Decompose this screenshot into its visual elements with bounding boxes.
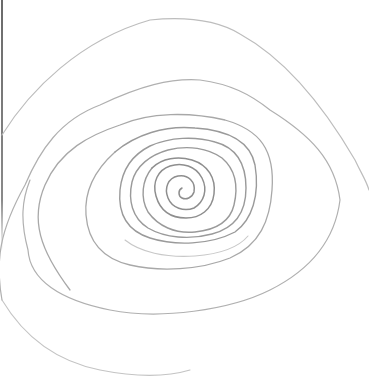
spiral-stroke-lower xyxy=(125,236,248,256)
spiral-stroke-middle-2 xyxy=(115,127,256,243)
spiral-drawing xyxy=(0,0,369,381)
spiral-stroke-middle-1 xyxy=(38,115,272,290)
spiral-stroke-outer-1b xyxy=(2,300,190,375)
spiral-stroke-inner-1 xyxy=(152,158,214,218)
